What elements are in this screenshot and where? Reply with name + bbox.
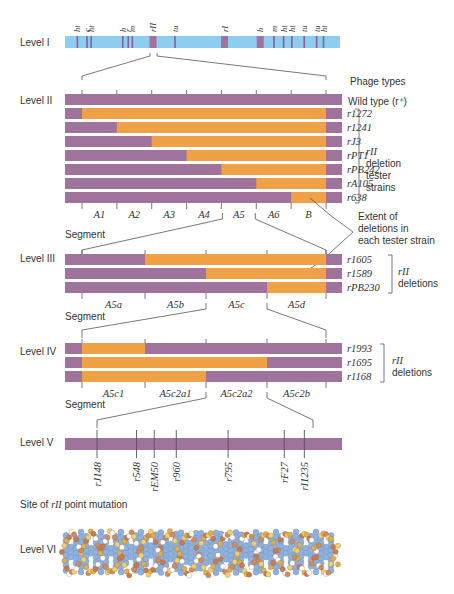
backbone-atom: [251, 560, 256, 565]
backbone-atom: [316, 543, 321, 548]
segment-label-A3: A3: [162, 209, 175, 220]
backbone-atom: [319, 565, 324, 570]
strain-label-r1241: r1241: [347, 122, 372, 133]
backbone-atom: [333, 549, 338, 554]
level-2-segment-label: Segment: [65, 229, 105, 240]
locus-marker-ht: [291, 36, 293, 48]
backbone-atom: [191, 537, 196, 542]
backbone-atom: [131, 534, 136, 539]
backbone-atom: [232, 559, 237, 564]
backbone-atom: [76, 561, 81, 566]
deletion-extent-r1272: [82, 108, 326, 119]
locus-marker-ht: [283, 36, 285, 48]
backbone-atom: [93, 566, 98, 571]
backbone-atom: [151, 533, 156, 538]
bracket-label-line-3: tester: [366, 170, 392, 181]
bracket-label-line-2: deletion: [366, 158, 401, 169]
backbone-atom: [271, 560, 276, 565]
backbone-atom: [119, 554, 124, 559]
deletion-extent-rA105: [256, 178, 326, 189]
backbone-atom: [249, 534, 254, 539]
locus-label-rII: rII: [148, 22, 158, 32]
deletion-extent-r1168: [82, 371, 206, 382]
mutation-label-rEM50: rEM50: [149, 461, 160, 491]
deletion-extent-r638: [291, 192, 326, 203]
level-1-label: Level I: [20, 37, 49, 48]
mutation-label-rJ148: rJ148: [92, 461, 103, 486]
backbone-atom: [110, 530, 115, 535]
backbone-atom: [227, 530, 232, 535]
backbone-atom: [249, 564, 254, 569]
backbone-atom: [62, 543, 67, 548]
backbone-atom: [213, 544, 218, 549]
segment-label-A5c2b: A5c2b: [282, 388, 310, 399]
locus-marker-ht: [323, 36, 325, 48]
backbone-atom: [199, 541, 204, 546]
segment-label-A5: A5: [232, 209, 245, 220]
backbone-atom: [247, 572, 252, 577]
base-pair-atom: [293, 569, 299, 575]
backbone-atom: [112, 567, 117, 572]
backbone-atom: [81, 557, 86, 562]
backbone-atom: [213, 559, 218, 564]
locus-marker-ht: [90, 36, 92, 48]
locus-label-m: m: [127, 26, 137, 32]
backbone-atom: [271, 540, 276, 545]
backbone-atom: [136, 557, 141, 562]
deletion-extent-rPT1: [187, 150, 326, 161]
strain-label-r1168: r1168: [347, 371, 372, 382]
backbone-atom: [62, 558, 67, 563]
backbone-atom: [215, 552, 220, 557]
level-6-label: Level VI: [20, 544, 56, 555]
locus-label-ht: ht: [287, 25, 297, 32]
backbone-atom: [112, 535, 117, 540]
segment-label-A5c: A5c: [227, 299, 245, 310]
strain-label-r1993: r1993: [347, 343, 372, 354]
backbone-atom: [179, 559, 184, 564]
backbone-atom: [175, 558, 180, 563]
backbone-atom: [268, 533, 273, 538]
backbone-atom: [153, 563, 158, 568]
deletion-extent-r1993: [82, 343, 145, 354]
bracket-label-line-2: deletions: [398, 278, 438, 289]
site-of-point-mutation-label: Site of rII point mutation: [20, 499, 127, 510]
backbone-atom: [307, 570, 312, 575]
backbone-atom: [67, 535, 72, 540]
segment-label-A6: A6: [267, 209, 280, 220]
backbone-atom: [285, 572, 290, 577]
backbone-atom: [232, 542, 237, 547]
strain-label-r1695: r1695: [347, 357, 372, 368]
backbone-atom: [95, 562, 100, 567]
segment-label-A1: A1: [93, 209, 106, 220]
locus-label-ht: ht: [319, 25, 329, 32]
backbone-atom: [201, 565, 206, 570]
strain-label-r1605: r1605: [347, 254, 372, 265]
deletion-extent-rJ3: [152, 136, 326, 147]
locus-label-rI: rI: [220, 25, 230, 32]
backbone-atom: [208, 530, 213, 535]
level-4-bracket: [380, 344, 384, 382]
backbone-atom: [311, 546, 316, 551]
wild-type-bar: [65, 94, 342, 105]
backbone-atom: [290, 561, 295, 566]
backbone-atom: [134, 541, 139, 546]
backbone-atom: [119, 545, 124, 550]
backbone-atom: [115, 542, 120, 547]
deletion-extent-r1605: [145, 254, 326, 265]
backbone-atom: [328, 536, 333, 541]
mutation-label-r795: r795: [223, 462, 234, 482]
backbone-atom: [230, 564, 235, 569]
mutation-label-rF27: rF27: [279, 461, 290, 483]
backbone-atom: [230, 535, 235, 540]
level-6-dna-helix: [59, 529, 340, 579]
backbone-atom: [254, 554, 259, 559]
backbone-atom: [187, 573, 192, 578]
backbone-atom: [295, 548, 300, 553]
deletion-extent-rPB230: [267, 282, 326, 293]
backbone-atom: [158, 551, 163, 556]
strain-label-r638: r638: [347, 192, 368, 203]
base-pair-atom: [138, 569, 144, 575]
backbone-atom: [100, 556, 105, 561]
segment-label-A5b: A5b: [166, 299, 184, 310]
zoom-line-left: [82, 53, 150, 80]
